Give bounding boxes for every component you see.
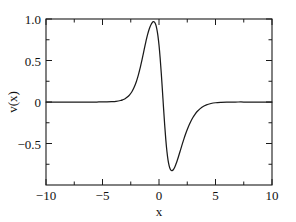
- y-tick-label: 0: [35, 95, 42, 110]
- y-tick-label: −0.5: [17, 137, 41, 152]
- data-series-line: [46, 22, 272, 171]
- x-tick-label: −10: [36, 188, 56, 203]
- x-axis-tick-labels: −10 −5 0 5 10: [36, 188, 279, 203]
- y-axis-major-ticks: [46, 19, 272, 144]
- y-axis-tick-labels: 1.0 0.5 0 −0.5: [17, 12, 41, 152]
- x-tick-label: −5: [96, 188, 110, 203]
- x-tick-label: 0: [156, 188, 163, 203]
- x-axis-title: x: [156, 204, 163, 219]
- x-tick-label: 5: [212, 188, 219, 203]
- y-tick-label: 0.5: [25, 54, 41, 69]
- line-chart: −10 −5 0 5 10 1.0 0.5 0 −0.5 x v(x): [0, 0, 296, 222]
- y-tick-label: 1.0: [25, 12, 41, 27]
- figure-container: −10 −5 0 5 10 1.0 0.5 0 −0.5 x v(x): [0, 0, 296, 222]
- x-tick-label: 10: [266, 188, 279, 203]
- y-axis-title: v(x): [5, 91, 20, 113]
